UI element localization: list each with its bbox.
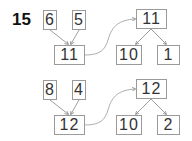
- sum-box: 11: [54, 45, 85, 65]
- addend-box: 4: [72, 80, 86, 100]
- part-box: 2: [157, 115, 180, 135]
- part-box: 10: [116, 45, 142, 65]
- addend-box: 5: [72, 10, 86, 30]
- part-box: 1: [157, 45, 180, 65]
- addend-box: 8: [43, 80, 57, 100]
- addend-box: 6: [43, 10, 57, 30]
- problem-number: 15: [12, 10, 31, 30]
- whole-box: 11: [136, 9, 167, 29]
- part-box: 10: [116, 115, 142, 135]
- sum-box: 12: [54, 115, 85, 135]
- whole-box: 12: [136, 79, 167, 99]
